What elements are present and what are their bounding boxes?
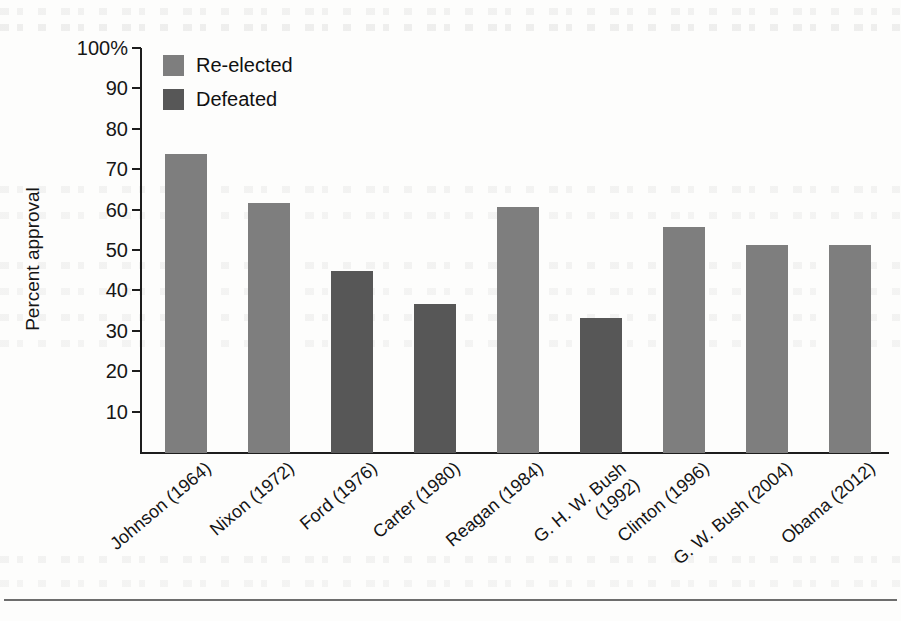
y-axis-tick-label: 40 [58, 280, 128, 300]
y-axis-tick-label: 10 [58, 402, 128, 422]
x-axis-tick-label: Ford (1976) [214, 458, 381, 603]
x-axis-tick-label: Nixon (1972) [131, 458, 298, 603]
y-axis-tick-label: 30 [58, 321, 128, 341]
y-axis-tick-label: 50 [58, 240, 128, 260]
y-axis-tick-label: 100% [58, 38, 128, 58]
y-axis-tick-labels: 100%908070605040302010 [54, 0, 128, 600]
bar[interactable] [331, 271, 373, 453]
legend-item-re-elected[interactable]: Re-elected [163, 48, 393, 82]
y-axis-tick-label: 80 [58, 119, 128, 139]
legend-item-defeated[interactable]: Defeated [163, 82, 393, 116]
x-axis-tick-label: G. W. Bush (2004) [629, 458, 796, 603]
bar-chart: Percent approval 100%908070605040302010 … [0, 0, 901, 600]
y-axis-tick-label: 90 [58, 78, 128, 98]
x-axis-tick-label-line: Obama (2012) [712, 458, 879, 603]
legend-label: Re-elected [196, 55, 293, 75]
footer-divider [4, 599, 897, 601]
x-axis-tick-label-line: Nixon (1972) [131, 458, 298, 603]
bar[interactable] [497, 207, 539, 453]
y-axis-title: Percent approval [22, 164, 44, 354]
bar[interactable] [165, 154, 207, 453]
bar[interactable] [663, 227, 705, 453]
x-axis-tick-label-line: Ford (1976) [214, 458, 381, 603]
bar[interactable] [580, 318, 622, 453]
x-axis-tick-label: Carter (1980) [297, 458, 464, 603]
legend-swatch-icon [163, 89, 184, 110]
bar[interactable] [746, 245, 788, 453]
x-axis-tick-label-line: G. W. Bush (2004) [629, 458, 796, 603]
y-axis-tick-label: 70 [58, 159, 128, 179]
bar[interactable] [829, 245, 871, 453]
x-axis-tick-label-line: G. H. W. Bush [463, 458, 630, 603]
page-canvas: Percent approval 100%908070605040302010 … [0, 0, 901, 621]
chart-legend: Re-elected Defeated [163, 48, 393, 116]
x-axis-tick-label-line: Carter (1980) [297, 458, 464, 603]
legend-label: Defeated [196, 89, 277, 109]
y-axis-tick-label: 20 [58, 361, 128, 381]
bar[interactable] [414, 304, 456, 453]
y-axis-tick-label: 60 [58, 200, 128, 220]
legend-swatch-icon [163, 55, 184, 76]
x-axis-tick-label: Obama (2012) [712, 458, 879, 603]
bar[interactable] [248, 203, 290, 453]
